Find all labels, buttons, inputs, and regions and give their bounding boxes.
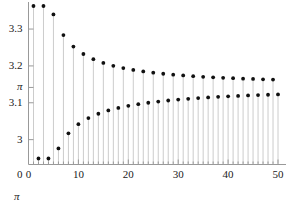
data-point (47, 157, 51, 161)
axes-group (29, 2, 287, 165)
data-point (32, 4, 36, 8)
data-point (116, 106, 120, 110)
data-point (91, 57, 95, 61)
data-point (216, 95, 220, 99)
data-point (201, 75, 205, 79)
data-point (211, 75, 215, 79)
data-point (77, 122, 81, 126)
data-point (261, 77, 265, 81)
data-point (151, 71, 155, 75)
data-point (221, 76, 225, 80)
x-tick-label: 10 (58, 168, 98, 180)
data-point (226, 94, 230, 98)
data-point (52, 13, 56, 17)
data-point (42, 4, 46, 8)
data-point (106, 109, 110, 113)
chart-plot-area (0, 0, 288, 212)
data-point (196, 96, 200, 100)
y-tick-label: 3.2 (0, 59, 23, 71)
chart-figure: 01020304050 33.1π3.23.30 π (0, 0, 288, 212)
data-point (131, 68, 135, 72)
data-point (271, 78, 275, 82)
data-point (111, 64, 115, 68)
data-point (206, 96, 210, 100)
data-point (62, 33, 66, 37)
x-tick-label: 40 (208, 168, 248, 180)
data-point (121, 66, 125, 70)
data-point (231, 76, 235, 80)
data-point (251, 77, 255, 81)
data-point (241, 77, 245, 81)
data-point (176, 98, 180, 102)
data-point (67, 131, 71, 135)
data-point (126, 104, 130, 108)
x-tick-label: 20 (108, 168, 148, 180)
corner-pi-label: π (14, 190, 20, 202)
data-point (72, 45, 76, 49)
data-point (146, 101, 150, 105)
data-point (181, 74, 185, 78)
data-point (246, 94, 250, 98)
x-tick-label: 50 (258, 168, 288, 180)
data-point (166, 99, 170, 103)
data-point (156, 100, 160, 104)
data-point (266, 93, 270, 97)
data-point (101, 61, 105, 65)
data-point (81, 52, 85, 56)
data-point (141, 70, 145, 74)
x-tick-label: 30 (158, 168, 198, 180)
y-tick-label: 3 (0, 133, 23, 145)
data-point (96, 112, 100, 116)
data-point (161, 72, 165, 76)
data-point (136, 102, 140, 106)
data-point (236, 94, 240, 98)
data-point (276, 93, 280, 97)
data-point (191, 74, 195, 78)
y-tick-label: π (0, 80, 23, 92)
data-point (57, 147, 61, 151)
data-point (186, 97, 190, 101)
data-point (256, 93, 260, 97)
y-tick-label: 3.3 (0, 22, 23, 34)
stem-lines-group (33, 6, 278, 164)
origin-zero-label: 0 (0, 168, 23, 180)
data-point (37, 157, 41, 161)
data-point (171, 73, 175, 77)
y-tick-label: 3.1 (0, 96, 23, 108)
data-point (86, 116, 90, 120)
